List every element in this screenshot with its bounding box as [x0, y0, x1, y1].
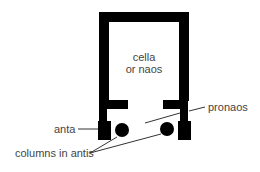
column-right: [160, 122, 174, 136]
pronaos-label: pronaos: [208, 101, 248, 113]
anta-right: [178, 121, 191, 140]
anta-label: anta: [54, 123, 75, 135]
right-front-wall-stub: [163, 100, 180, 109]
cella-label-line1: cella: [114, 51, 174, 63]
anta-left: [98, 121, 111, 140]
left-front-wall-stub: [107, 100, 128, 109]
left-side-wall-lower: [99, 100, 107, 122]
cella-label: cella or naos: [114, 51, 174, 75]
pronaos-leader-line-outer: [189, 107, 205, 111]
back-wall: [99, 12, 189, 22]
right-side-wall-lower: [180, 100, 188, 122]
columns-in-antis-label: columns in antis: [15, 147, 94, 159]
cella-label-line2: or naos: [114, 63, 174, 75]
column-left: [115, 123, 129, 137]
right-side-wall: [179, 12, 189, 101]
pronaos-leader-line-inner: [145, 113, 180, 123]
left-side-wall: [99, 12, 109, 101]
